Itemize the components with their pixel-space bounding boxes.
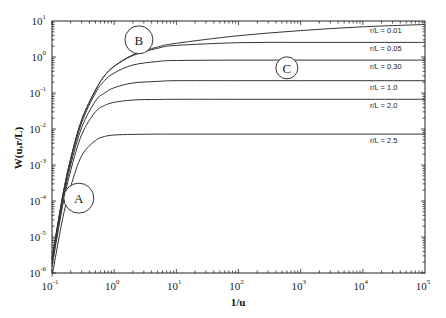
chart: r/L = 0.01r/L = 0.05r/L = 0.30r/L = 1.0r… xyxy=(0,0,446,318)
annotation-a: A xyxy=(64,183,94,213)
x-tick-label: 101 xyxy=(167,278,182,292)
y-axis-title: W(u,r/L) xyxy=(12,126,25,169)
y-tick-label: 101 xyxy=(32,13,47,27)
curve-label: r/L = 0.05 xyxy=(370,44,402,53)
x-tick-label: 104 xyxy=(354,278,369,292)
curve-r-l-2-5 xyxy=(52,134,425,276)
annotations: ABC xyxy=(64,26,298,213)
x-tick-label: 100 xyxy=(105,278,120,292)
curve-labels: r/L = 0.01r/L = 0.05r/L = 0.30r/L = 1.0r… xyxy=(370,26,402,145)
curve-r-l-2-0 xyxy=(52,99,425,266)
tick-labels: 10-110010110210310410510110010-110-210-3… xyxy=(29,13,431,292)
plot-border xyxy=(52,21,425,273)
curve-r-l-0-05 xyxy=(52,42,425,258)
svg-text:A: A xyxy=(74,191,84,206)
x-tick-label: 103 xyxy=(291,278,306,292)
y-tick-label: 10-4 xyxy=(29,193,46,207)
curve-label: r/L = 2.0 xyxy=(370,101,397,110)
y-tick-label: 10-3 xyxy=(29,157,46,171)
x-tick-label: 10-1 xyxy=(42,278,59,292)
y-tick-label: 10-6 xyxy=(29,265,46,279)
annotation-c: C xyxy=(276,57,298,79)
y-tick-label: 100 xyxy=(32,49,47,63)
svg-text:C: C xyxy=(283,61,292,76)
y-tick-label: 10-1 xyxy=(29,85,46,99)
plot-frame xyxy=(52,21,425,273)
curve-label: r/L = 1.0 xyxy=(370,83,397,92)
x-tick-label: 105 xyxy=(416,278,431,292)
curve-label: r/L = 0.30 xyxy=(370,62,402,71)
annotation-b: B xyxy=(125,26,153,54)
curve-label: r/L = 0.01 xyxy=(370,26,402,35)
x-axis-title: 1/u xyxy=(231,296,246,308)
x-tick-label: 102 xyxy=(229,278,244,292)
axis-ticks xyxy=(52,21,425,273)
y-tick-label: 10-5 xyxy=(29,229,46,243)
y-tick-label: 10-2 xyxy=(29,121,46,135)
svg-text:B: B xyxy=(135,33,144,48)
curve-label: r/L = 2.5 xyxy=(370,136,397,145)
